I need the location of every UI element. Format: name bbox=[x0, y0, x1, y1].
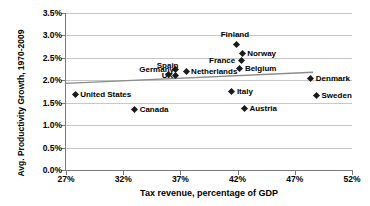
scatter-chart: Avg. Productivity Growth, 1970-2009 0.0%… bbox=[0, 0, 370, 206]
y-tick-label: 2.0% bbox=[28, 75, 62, 85]
data-point-label: Austria bbox=[249, 104, 277, 113]
y-axis-title: Avg. Productivity Growth, 1970-2009 bbox=[14, 0, 28, 206]
x-tick-label: 42% bbox=[218, 174, 258, 184]
data-point-label: Spain bbox=[157, 61, 179, 70]
y-tick-label: 3.5% bbox=[28, 8, 62, 18]
x-tick-label: 52% bbox=[332, 174, 370, 184]
data-point-label: Denmark bbox=[316, 74, 350, 83]
x-axis-line bbox=[66, 170, 353, 171]
data-point-label: Canada bbox=[140, 105, 169, 114]
x-tick-label: 32% bbox=[103, 174, 143, 184]
data-point-label: Sweden bbox=[322, 91, 352, 100]
data-point-label: United States bbox=[80, 90, 131, 99]
data-point-label: Netherlands bbox=[191, 67, 237, 76]
y-tick-label: 1.0% bbox=[28, 120, 62, 130]
data-point-label: Belgium bbox=[245, 64, 277, 73]
x-tick-label: 27% bbox=[46, 174, 86, 184]
x-axis-title: Tax revenue, percentage of GDP bbox=[66, 188, 352, 198]
data-point-label: Norway bbox=[247, 49, 276, 58]
y-tick-label: 1.5% bbox=[28, 98, 62, 108]
y-tick-label: 3.0% bbox=[28, 30, 62, 40]
data-point-label: Italy bbox=[237, 87, 253, 96]
x-tick-label: 47% bbox=[275, 174, 315, 184]
y-tick-label: 2.5% bbox=[28, 53, 62, 63]
x-tick-label: 37% bbox=[160, 174, 200, 184]
data-point-label: Finland bbox=[221, 30, 249, 39]
data-point-label: France bbox=[209, 56, 235, 65]
plot-area: United StatesCanadaGermanyUKSpainNetherl… bbox=[66, 13, 352, 170]
y-tick-label: 0.5% bbox=[28, 143, 62, 153]
